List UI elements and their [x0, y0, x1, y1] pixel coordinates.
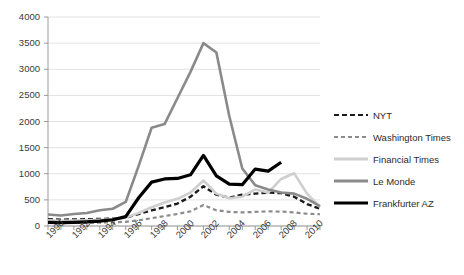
- legend-item-le-monde[interactable]: Le Monde: [334, 170, 462, 192]
- y-axis-tick-label: 3500: [2, 38, 40, 48]
- legend-swatch-icon: [334, 198, 368, 208]
- legend-swatch-icon: [334, 154, 368, 164]
- y-axis-tick-label: 3000: [2, 64, 40, 74]
- y-axis-tick-label: 1000: [2, 169, 40, 179]
- y-axis-tick-label: 0: [2, 221, 40, 231]
- y-axis-tick-label: 1500: [2, 143, 40, 153]
- y-axis-tick-label: 2000: [2, 117, 40, 127]
- chart-legend: NYTWashington TimesFinancial TimesLe Mon…: [334, 104, 462, 214]
- legend-label: Financial Times: [373, 154, 439, 165]
- y-axis-tick-label: 500: [2, 195, 40, 205]
- legend-item-frankfurter-az[interactable]: Frankfurter AZ: [334, 192, 462, 214]
- gridlines: [44, 17, 320, 226]
- legend-item-washington-times[interactable]: Washington Times: [334, 126, 462, 148]
- legend-item-nyt[interactable]: NYT: [334, 104, 462, 126]
- legend-swatch-icon: [334, 132, 368, 142]
- data-series-group: [48, 43, 320, 223]
- legend-swatch-icon: [334, 176, 368, 186]
- legend-label: Washington Times: [373, 132, 451, 143]
- legend-label: Le Monde: [373, 176, 415, 187]
- y-axis-tick-label: 2500: [2, 90, 40, 100]
- legend-label: Frankfurter AZ: [373, 198, 434, 209]
- legend-label: NYT: [373, 110, 392, 121]
- y-axis-tick-label: 4000: [2, 12, 40, 22]
- legend-swatch-icon: [334, 110, 368, 120]
- line-chart: 05001000150020002500300035004000 1990199…: [0, 0, 464, 275]
- legend-item-financial-times[interactable]: Financial Times: [334, 148, 462, 170]
